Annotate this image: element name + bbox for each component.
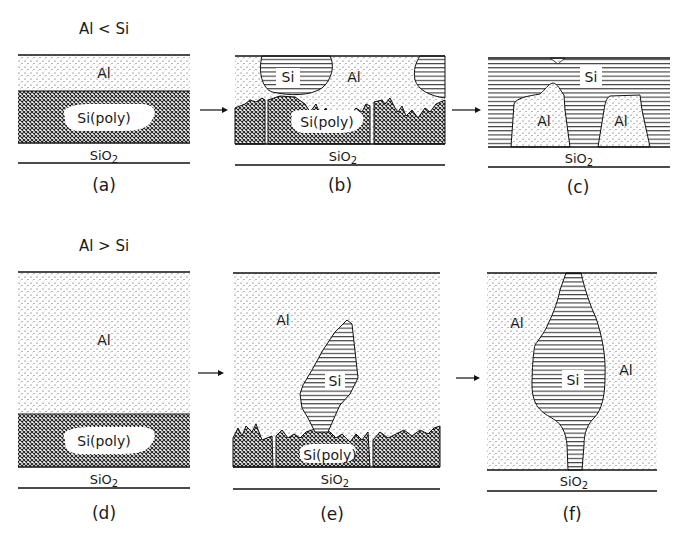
sipoly-label: Si(poly) <box>300 114 353 130</box>
panel-f: Al Al Si SiO2 (f) <box>487 273 657 524</box>
sio2-label: SiO2 <box>560 474 588 491</box>
caption-b: (b) <box>328 175 352 195</box>
sio2-label: SiO2 <box>90 148 118 165</box>
al-si-layer-exchange-diagram: Al < Si Al > Si Al Si(poly) SiO2 (a) Si <box>0 0 683 546</box>
arrow-e-to-f <box>456 375 480 381</box>
al-label: Al <box>276 312 289 328</box>
sipoly-label: Si(poly) <box>303 447 356 463</box>
condition-label-bottom: Al > Si <box>79 237 129 255</box>
panel-e: Al Si Si(poly) SiO2 (e) <box>233 273 440 524</box>
panel-b: Si Al Si(poly) SiO2 (b) <box>235 56 445 195</box>
si-label: Si <box>585 69 598 85</box>
sipoly-label: Si(poly) <box>77 433 130 449</box>
arrow-b-to-c <box>452 107 481 113</box>
al-label-left: Al <box>537 113 550 129</box>
caption-e: (e) <box>320 504 344 524</box>
sio2-label: SiO2 <box>90 472 118 489</box>
al-label-right: Al <box>614 113 627 129</box>
sio2-label: SiO2 <box>329 149 357 166</box>
al-label: Al <box>97 332 110 348</box>
al-label-left: Al <box>510 315 523 331</box>
caption-c: (c) <box>567 177 590 197</box>
caption-d: (d) <box>92 503 116 523</box>
sio2-label: SiO2 <box>565 151 593 168</box>
si-label: Si <box>567 372 580 388</box>
sipoly-label: Si(poly) <box>77 110 130 126</box>
arrow-d-to-e <box>198 370 224 376</box>
arrow-a-to-b <box>200 107 228 113</box>
panel-d: Al Si(poly) SiO2 (d) <box>18 272 190 523</box>
sio2-label: SiO2 <box>321 472 349 489</box>
caption-a: (a) <box>92 175 116 195</box>
al-label: Al <box>97 65 110 81</box>
al-label-right: Al <box>619 362 632 378</box>
panel-c: Si Al Al SiO2 (c) <box>488 58 670 197</box>
caption-f: (f) <box>562 504 581 524</box>
al-label: Al <box>347 69 360 85</box>
si-label: Si <box>329 373 342 389</box>
panel-a: Al Si(poly) SiO2 (a) <box>18 55 190 195</box>
si-label: Si <box>282 69 295 85</box>
condition-label-top: Al < Si <box>79 20 129 38</box>
